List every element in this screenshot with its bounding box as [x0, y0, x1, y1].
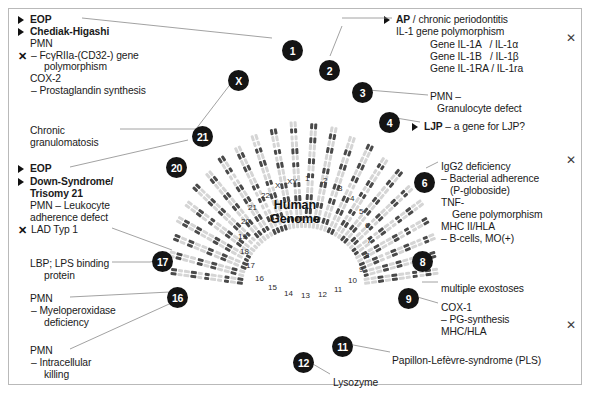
chromosome-label-11: 11 — [334, 286, 342, 294]
marker-badge-16[interactable]: 16 — [167, 287, 188, 308]
chromosome-label-12: 12 — [318, 291, 327, 299]
chromosome-label-XY: XY — [287, 178, 298, 186]
chromosome-label-7: 7 — [367, 237, 371, 245]
annotation-eop-2: EOP — [30, 163, 51, 175]
marker-badge-17[interactable]: 17 — [152, 251, 173, 272]
marker-badge-12[interactable]: 12 — [293, 352, 314, 373]
annotation-papillon-lefevre: Papillon-Lefèvre-syndrome (PLS) — [392, 355, 541, 367]
annotation-down-syndrome: Down-Syndrome/ — [30, 176, 113, 188]
chromosome-label-19: 19 — [238, 233, 247, 241]
annotation-pmn-leukocyte: PMN – Leukocyte — [30, 200, 110, 212]
annotation-granulocyte-defect: Granulocyte defect — [437, 103, 522, 115]
marker-badge-1[interactable]: 1 — [282, 40, 303, 61]
bullet-triangle-icon — [18, 178, 24, 186]
annotation-granulomatosis: granulomatosis — [30, 137, 98, 149]
marker-badge-2[interactable]: 2 — [319, 60, 340, 81]
annotation-pg-synthesis: – PG-synthesis — [441, 314, 509, 326]
annotation-p-globoside: (P-globoside) — [450, 185, 510, 197]
close-icon-3[interactable]: ✕ — [566, 319, 576, 331]
chromosome-label-20: 20 — [241, 218, 250, 226]
annotation-bacterial-adherence: – Bacterial adherence — [441, 173, 539, 185]
annotation-b-cells: – B-cells, MO(+) — [441, 233, 514, 245]
annotation-myeloperoxidase: – Myeloperoxidase — [31, 305, 116, 317]
annotation-myelo-cont: deficiency — [44, 317, 89, 329]
chromosome-label-10: 10 — [348, 277, 357, 285]
annotation-gene-il1a: Gene IL-1A / IL-1α — [430, 39, 518, 51]
chromosome-label-6: 6 — [365, 222, 369, 230]
annotation-cox1: COX-1 — [441, 302, 472, 314]
bullet-triangle-icon — [18, 16, 24, 24]
marker-badge-3[interactable]: 3 — [352, 82, 373, 103]
annotation-il1-polymorphism: IL-1 gene polymorphism — [396, 26, 504, 38]
annotation-multiple-exostoses: multiple exostoses — [441, 283, 524, 295]
chromosome-label-16: 16 — [255, 275, 264, 283]
chromosome-label-14: 14 — [284, 290, 293, 298]
bullet-triangle-icon — [384, 16, 390, 24]
marker-badge-11[interactable]: 11 — [332, 336, 353, 357]
annotation-mhc2-hla: MHC II/HLA — [441, 221, 495, 233]
chromosome-label-17: 17 — [246, 262, 255, 270]
annotation-pmn-2: PMN — [30, 293, 53, 305]
annotation-pmn-granulocyte: PMN – — [430, 91, 461, 103]
chromosome-label-8: 8 — [365, 252, 369, 260]
annotation-prostaglandin: – Prostaglandin synthesis — [31, 85, 146, 97]
marker-badge-4[interactable]: 4 — [379, 112, 400, 133]
chromosome-label-2: 2 — [323, 177, 327, 185]
marker-badge-8[interactable]: 8 — [412, 251, 433, 272]
chromosome-label-13: 13 — [301, 292, 310, 300]
chromosome-label-18: 18 — [240, 248, 249, 256]
bullet-triangle-icon — [412, 123, 418, 131]
chromosome-label-4: 4 — [350, 195, 354, 203]
genome-figure: Human Genome EOPChediak-HigashiPMN✕– Fcγ… — [0, 0, 592, 395]
annotation-chediak-higashi: Chediak-Higashi — [30, 26, 109, 38]
marker-badge-x[interactable]: X — [228, 70, 249, 91]
annotation-ljp-gene: LJP – a gene for LJP? — [424, 121, 525, 133]
chromosome-label-X: X — [275, 182, 280, 190]
annotation-pmn-1: PMN — [30, 38, 53, 50]
annotation-prefix: LJP — [424, 121, 443, 132]
chromosome-label-22: 22 — [261, 192, 270, 200]
annotation-prefix: AP — [396, 14, 410, 25]
annotation-lbp: LBP; LPS binding — [30, 258, 109, 270]
chromosome-label-15: 15 — [268, 284, 277, 292]
annotation-gene-il1ra: Gene IL-1RA / IL-1ra — [430, 63, 523, 75]
annotation-killing: killing — [44, 369, 69, 381]
annotation-adherence-defect: adherence defect — [30, 212, 108, 224]
annotation-chronic: Chronic — [30, 125, 65, 137]
annotation-tnf: TNF- — [441, 197, 464, 209]
marker-badge-6[interactable]: 6 — [414, 172, 435, 193]
annotation-cox2: COX-2 — [30, 73, 61, 85]
annotation-pmn-3: PMN — [30, 345, 53, 357]
center-title-line2: Genome — [255, 212, 335, 226]
bullet-triangle-icon — [18, 165, 24, 173]
marker-badge-9[interactable]: 9 — [398, 288, 419, 309]
annotation-trisomy21: Trisomy 21 — [30, 188, 83, 200]
annotation-fcgr2a: – FcγRIIa-(CD32-) gene — [31, 50, 139, 62]
chromosome-label-21: 21 — [248, 204, 257, 212]
annotation-fcgr2a-cont: polymorphism — [44, 61, 107, 73]
chromosome-label-9: 9 — [359, 266, 363, 274]
bullet-triangle-icon — [18, 28, 24, 36]
center-title-line1: Human — [255, 198, 335, 212]
chromosome-label-3: 3 — [338, 185, 342, 193]
x-marker-icon: ✕ — [18, 51, 27, 61]
chromosome-label-5: 5 — [359, 208, 363, 216]
annotation-igg2-deficiency: IgG2 deficiency — [441, 161, 510, 173]
annotation-lysozyme: Lysozyme — [333, 377, 378, 389]
annotation-mhc-hla: MHC/HLA — [441, 326, 487, 338]
chromosome-label-1: 1 — [305, 175, 309, 183]
annotation-lad-typ1: LAD Typ 1 — [31, 224, 78, 236]
annotation-ap-periodontitis: AP / chronic periodontitis — [396, 14, 508, 26]
marker-badge-21[interactable]: 21 — [192, 126, 213, 147]
annotation-lbp-cont: protein — [44, 270, 75, 282]
close-icon-2[interactable]: ✕ — [566, 154, 576, 166]
x-marker-icon: ✕ — [18, 225, 27, 235]
marker-badge-20[interactable]: 20 — [166, 157, 187, 178]
close-icon-1[interactable]: ✕ — [566, 32, 576, 44]
annotation-tnf-polymorphism: Gene polymorphism — [452, 209, 542, 221]
annotation-intracellular: – Intracellular — [31, 357, 91, 369]
annotation-gene-il1b: Gene IL-1B / IL-1β — [430, 51, 519, 63]
annotation-eop-1: EOP — [30, 14, 51, 26]
center-title: Human Genome — [255, 198, 335, 226]
